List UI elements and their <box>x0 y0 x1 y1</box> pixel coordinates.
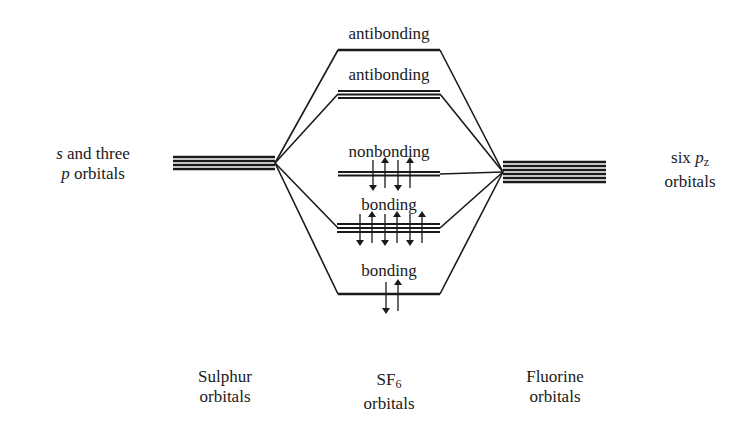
mo-level-antibonding-3 <box>338 91 440 98</box>
sulphur-orbitals-bottom-label: Sulphur orbitals <box>175 367 275 407</box>
sf6-orbitals-bottom-label: SF6 orbitals <box>338 370 440 414</box>
label-text: six <box>671 148 695 167</box>
label-text: Fluorine <box>500 367 610 387</box>
level-label-antibonding-second: antibonding <box>338 65 440 85</box>
electrons-bonding-1 <box>386 282 398 311</box>
left-correlation-lines <box>275 50 338 294</box>
fluorine-orbital-bundle <box>503 162 606 182</box>
level-label-antibonding-top: antibonding <box>338 24 440 44</box>
label-text: orbitals <box>175 387 275 407</box>
label-text: SF <box>377 370 396 389</box>
level-label-bonding-bottom: bonding <box>338 261 440 281</box>
mo-level-bonding-3 <box>337 224 440 232</box>
label-text: orbitals <box>338 394 440 414</box>
p-italic: p <box>61 164 70 183</box>
right-correlation-lines <box>440 50 503 294</box>
label-text: Sulphur <box>175 367 275 387</box>
fluorine-orbitals-bottom-label: Fluorine orbitals <box>500 367 610 407</box>
label-text: orbitals <box>70 164 125 183</box>
fluorine-orbitals-side-label: six pz orbitals <box>650 148 730 192</box>
label-text: orbitals <box>650 172 730 192</box>
p-italic: p <box>695 148 704 167</box>
electrons-nonbonding <box>373 160 410 188</box>
mo-level-nonbonding <box>338 172 440 176</box>
level-label-nonbonding: nonbonding <box>338 142 440 162</box>
label-text: orbitals <box>500 387 610 407</box>
label-text: and three <box>63 144 130 163</box>
s-italic: s <box>56 144 63 163</box>
z-subscript: z <box>704 155 709 169</box>
six-subscript: 6 <box>395 377 401 391</box>
level-label-bonding-middle: bonding <box>338 195 440 215</box>
sulphur-orbitals-side-label: s and three p orbitals <box>28 144 158 184</box>
sulphur-orbital-bundle <box>173 157 275 169</box>
